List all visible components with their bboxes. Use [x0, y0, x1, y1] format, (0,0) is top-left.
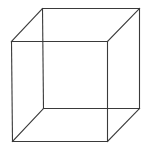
top-left-connector	[12, 9, 43, 42]
necker-cube-figure: Necker cube	[0, 0, 148, 152]
wireframe-cube-drawing	[0, 0, 148, 152]
bottom-left-connector	[13, 109, 44, 142]
top-right-connector	[108, 9, 140, 42]
front-left-edge	[12, 42, 13, 142]
bottom-right-connector	[108, 109, 140, 142]
back-left-edge	[43, 9, 44, 109]
cube-edges	[12, 9, 140, 142]
